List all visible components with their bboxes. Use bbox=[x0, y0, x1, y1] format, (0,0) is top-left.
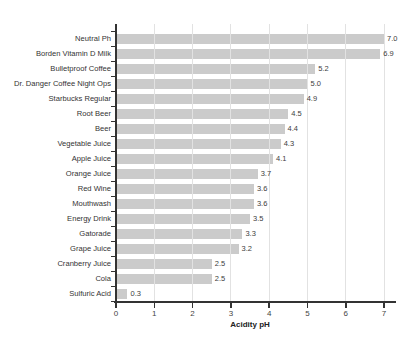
bar bbox=[116, 124, 285, 134]
x-tick-label: 7 bbox=[376, 309, 392, 318]
y-axis-tick bbox=[111, 166, 117, 167]
x-gridline bbox=[384, 24, 385, 301]
y-axis-tick bbox=[111, 121, 117, 122]
category-label: Borden Vitamin D Milk bbox=[0, 49, 111, 59]
x-tick-label: 3 bbox=[223, 309, 239, 318]
value-label: 2.5 bbox=[215, 259, 225, 269]
category-label: Grape Juice bbox=[0, 244, 111, 254]
value-label: 3.3 bbox=[245, 229, 255, 239]
category-label: Root Beer bbox=[0, 109, 111, 119]
y-axis-tick bbox=[111, 286, 117, 287]
value-label: 5.0 bbox=[311, 79, 321, 89]
x-tick-label: 2 bbox=[185, 309, 201, 318]
x-gridline bbox=[230, 24, 231, 301]
y-axis-tick bbox=[111, 196, 117, 197]
category-label: Gatorade bbox=[0, 229, 111, 239]
bar bbox=[116, 64, 315, 74]
y-axis-tick bbox=[111, 136, 117, 137]
y-axis-tick bbox=[111, 256, 117, 257]
category-label: Red Wine bbox=[0, 184, 111, 194]
acidity-ph-bar-chart: Acidity pH Neutral Ph7.0Borden Vitamin D… bbox=[0, 0, 419, 345]
x-gridline bbox=[269, 24, 270, 301]
value-label: 0.3 bbox=[130, 289, 140, 299]
y-axis-tick bbox=[111, 271, 117, 272]
y-axis-tick bbox=[111, 91, 117, 92]
bar bbox=[116, 274, 212, 284]
value-label: 4.1 bbox=[276, 154, 286, 164]
x-axis-tick bbox=[268, 301, 270, 308]
category-label: Orange Juice bbox=[0, 169, 111, 179]
y-axis-tick bbox=[111, 76, 117, 77]
value-label: 4.3 bbox=[284, 139, 294, 149]
x-axis-tick bbox=[307, 301, 309, 308]
bar bbox=[116, 244, 239, 254]
bar bbox=[116, 109, 288, 119]
category-label: Energy Drink bbox=[0, 214, 111, 224]
bar bbox=[116, 154, 273, 164]
category-label: Cranberry Juice bbox=[0, 259, 111, 269]
category-label: Starbucks Regular bbox=[0, 94, 111, 104]
x-tick-label: 0 bbox=[108, 309, 124, 318]
bar bbox=[116, 229, 242, 239]
x-gridline bbox=[307, 24, 308, 301]
category-label: Mouthwash bbox=[0, 199, 111, 209]
x-axis-tick bbox=[345, 301, 347, 308]
bar bbox=[116, 259, 212, 269]
category-label: Bulletproof Coffee bbox=[0, 64, 111, 74]
x-axis-tick bbox=[383, 301, 385, 308]
y-axis-tick bbox=[111, 226, 117, 227]
y-axis-tick bbox=[111, 61, 117, 62]
bar bbox=[116, 49, 380, 59]
value-label: 3.6 bbox=[257, 184, 267, 194]
value-label: 4.5 bbox=[291, 109, 301, 119]
y-axis-line bbox=[115, 24, 117, 302]
bar bbox=[116, 184, 254, 194]
bar bbox=[116, 289, 127, 299]
category-label: Dr. Danger Coffee Night Ops bbox=[0, 79, 111, 89]
value-label: 7.0 bbox=[387, 34, 397, 44]
value-label: 3.2 bbox=[242, 244, 252, 254]
x-tick-label: 5 bbox=[300, 309, 316, 318]
x-axis-tick bbox=[192, 301, 194, 308]
value-label: 4.9 bbox=[307, 94, 317, 104]
y-axis-tick bbox=[111, 151, 117, 152]
x-tick-label: 1 bbox=[146, 309, 162, 318]
bar bbox=[116, 169, 258, 179]
y-axis-tick bbox=[111, 106, 117, 107]
category-label: Vegetable Juice bbox=[0, 139, 111, 149]
category-label: Apple Juice bbox=[0, 154, 111, 164]
value-label: 4.4 bbox=[288, 124, 298, 134]
bar bbox=[116, 94, 304, 104]
y-axis-tick bbox=[111, 211, 117, 212]
category-label: Cola bbox=[0, 274, 111, 284]
category-label: Neutral Ph bbox=[0, 34, 111, 44]
x-gridline bbox=[192, 24, 193, 301]
bar bbox=[116, 199, 254, 209]
x-axis-tick bbox=[230, 301, 232, 308]
y-axis-tick bbox=[111, 31, 117, 32]
value-label: 3.6 bbox=[257, 199, 267, 209]
x-axis-tick bbox=[115, 301, 117, 308]
x-gridline bbox=[345, 24, 346, 301]
x-tick-label: 4 bbox=[261, 309, 277, 318]
x-axis-title: Acidity pH bbox=[116, 320, 384, 329]
value-label: 6.9 bbox=[383, 49, 393, 59]
y-axis-tick bbox=[111, 181, 117, 182]
x-axis-tick bbox=[154, 301, 156, 308]
value-label: 3.5 bbox=[253, 214, 263, 224]
category-label: Sulfuric Acid bbox=[0, 289, 111, 299]
x-axis-line bbox=[114, 301, 397, 303]
category-label: Beer bbox=[0, 124, 111, 134]
bar bbox=[116, 34, 384, 44]
x-gridline bbox=[154, 24, 155, 301]
value-label: 5.2 bbox=[318, 64, 328, 74]
x-tick-label: 6 bbox=[338, 309, 354, 318]
bar bbox=[116, 139, 281, 149]
bar bbox=[116, 79, 308, 89]
value-label: 2.5 bbox=[215, 274, 225, 284]
y-axis-tick bbox=[111, 46, 117, 47]
y-axis-tick bbox=[111, 241, 117, 242]
value-label: 3.7 bbox=[261, 169, 271, 179]
